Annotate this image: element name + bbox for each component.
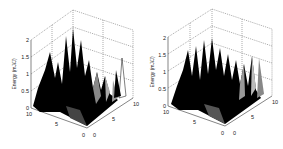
surface-plot-right: 0 0.5 1 1.5 2 10 5 0 0 5 10 Energy (mJ/J… bbox=[141, 0, 282, 149]
x-tick: 5 bbox=[193, 119, 196, 125]
z-tick: 2 bbox=[26, 37, 29, 43]
y-tick: 10 bbox=[272, 99, 278, 105]
z-tick: 1 bbox=[163, 69, 166, 75]
y-tick: 10 bbox=[133, 101, 139, 107]
y-tick: 5 bbox=[112, 116, 115, 122]
z-tick: 1.5 bbox=[21, 54, 29, 60]
surface-mesh bbox=[171, 38, 264, 124]
x-tick: 10 bbox=[26, 111, 32, 117]
z-tick: 0.5 bbox=[21, 88, 29, 94]
plot-canvas: 0 0.5 1 1.5 2 10 5 0 0 5 10 Energy (mJ/J… bbox=[0, 0, 141, 149]
surface-plot-left: 0 0.5 1 1.5 2 10 5 0 0 5 10 Energy (mJ/J… bbox=[0, 0, 141, 149]
surface-mesh bbox=[33, 28, 126, 126]
y-tick: 5 bbox=[251, 114, 254, 120]
plot-canvas: 0 0.5 1 1.5 2 10 5 0 0 5 10 Energy (mJ/J… bbox=[141, 0, 282, 149]
x-tick: 0 bbox=[82, 132, 85, 138]
z-axis-label: Energy (mJ/J) bbox=[149, 56, 155, 87]
y-tick: 0 bbox=[93, 132, 96, 138]
z-tick: 1.5 bbox=[158, 52, 166, 58]
z-tick: 2 bbox=[163, 35, 166, 41]
x-tick: 10 bbox=[163, 109, 169, 115]
z-axis-label: Energy (mJ/J) bbox=[11, 58, 17, 89]
y-tick: 0 bbox=[233, 130, 236, 136]
z-tick: 1 bbox=[26, 71, 29, 77]
z-tick: 0.5 bbox=[158, 86, 166, 92]
x-tick: 0 bbox=[221, 130, 224, 136]
x-tick: 5 bbox=[55, 121, 58, 127]
